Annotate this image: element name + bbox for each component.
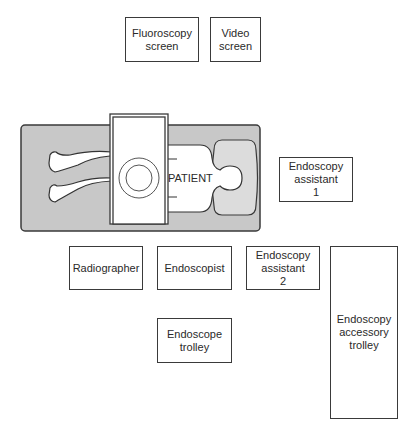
video-screen-box: Video screen bbox=[210, 17, 261, 62]
radiographer-box: Radiographer bbox=[69, 246, 143, 290]
endoscopy-assistant-1-box: Endoscopy assistant 1 bbox=[279, 157, 353, 202]
endoscopy-accessory-trolley-box: Endoscopy accessory trolley bbox=[330, 246, 398, 419]
fluoroscopy-screen-box: Fluoroscopy screen bbox=[125, 17, 199, 62]
endoscopist-box: Endoscopist bbox=[157, 246, 232, 290]
endoscope-trolley-box: Endoscope trolley bbox=[157, 318, 232, 363]
endoscopy-assistant-2-box: Endoscopy assistant 2 bbox=[246, 246, 320, 290]
patient-label: PATIENT bbox=[168, 172, 213, 184]
